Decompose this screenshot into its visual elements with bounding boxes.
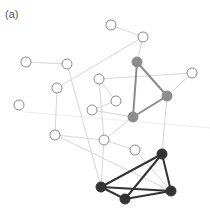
edge-black: [101, 187, 171, 191]
graph-edges: [26, 25, 192, 199]
node-open: [50, 130, 60, 140]
node-open: [62, 59, 72, 69]
edge-faint: [55, 88, 57, 135]
edge-black: [125, 154, 162, 199]
node-open: [111, 96, 121, 106]
node-open: [21, 57, 31, 67]
node-black: [166, 186, 176, 196]
edge-faint: [101, 140, 104, 187]
node-black: [96, 182, 106, 192]
node-gray: [162, 91, 172, 101]
network-graph: [0, 0, 210, 216]
node-open: [138, 32, 148, 42]
node-gray: [128, 112, 138, 122]
node-open: [106, 20, 116, 30]
edge-gray: [137, 62, 167, 96]
edge-faint: [92, 110, 133, 117]
edge-faint: [99, 73, 192, 79]
edge-gray: [133, 96, 167, 117]
node-gray: [132, 57, 142, 67]
node-open: [187, 68, 197, 78]
node-black: [157, 149, 167, 159]
edge-faint: [99, 79, 104, 140]
node-open: [99, 135, 109, 145]
node-open: [87, 105, 97, 115]
edge-faint: [26, 62, 67, 64]
node-open: [130, 145, 140, 155]
node-black: [120, 194, 130, 204]
edge-faint: [55, 135, 104, 140]
node-open: [14, 100, 24, 110]
edge-faint: [162, 96, 167, 154]
node-open: [52, 83, 62, 93]
edge-gray: [133, 62, 137, 117]
edge-black: [125, 191, 171, 199]
node-open: [94, 74, 104, 84]
